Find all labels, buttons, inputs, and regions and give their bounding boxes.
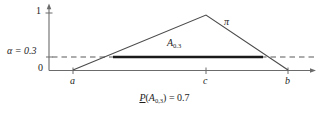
alpha-cut-label-subscript: 0.3 xyxy=(173,42,181,49)
figure-caption: P(A0,3) = 0.7 xyxy=(0,92,329,103)
x-axis xyxy=(49,68,316,73)
y-axis xyxy=(47,4,52,71)
x-tick-label-b: b xyxy=(285,76,290,86)
membership-function-label-pi: π xyxy=(224,17,229,27)
figure-container: 1 α = 0.3 0 a c b π A0.3 P(A0,3) = 0.7 xyxy=(0,0,329,115)
alpha-cut-label: A0.3 xyxy=(167,38,181,48)
caption-value: 0.7 xyxy=(177,92,190,103)
alpha-level-label: α = 0.3 xyxy=(7,46,37,56)
caption-equals: = xyxy=(166,92,177,103)
x-tick-label-c: c xyxy=(203,76,207,86)
y-axis-label-zero: 0 xyxy=(38,63,43,73)
caption-set-subscript: 0,3 xyxy=(155,97,163,104)
y-axis-label-one: 1 xyxy=(36,6,41,16)
x-tick-label-a: a xyxy=(70,76,75,86)
